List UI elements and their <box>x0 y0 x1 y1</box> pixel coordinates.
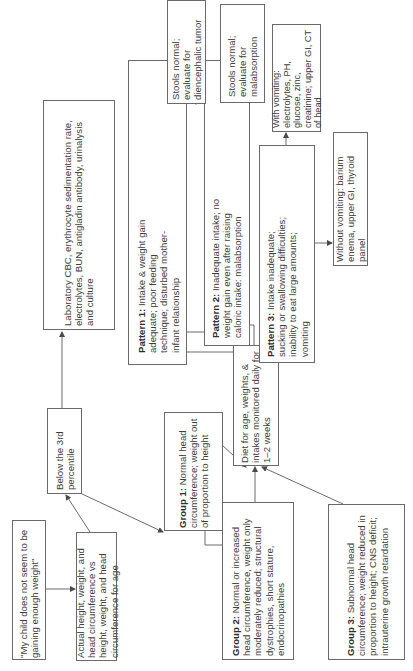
group1-box: Group 1: Normal head circumference; weig… <box>164 412 223 531</box>
pattern3-label: Pattern 3: <box>265 313 276 357</box>
pattern1-box: Pattern 1: Intake & weight gain adequate… <box>128 60 187 365</box>
stools-malabsorption-text: Stools normal; evaluate for malabsorptio… <box>226 11 260 97</box>
with-vomiting-box: With vomiting: electrolytes, PH, glucose… <box>272 24 321 132</box>
pattern2-label: Pattern 2: <box>210 294 221 338</box>
with-vomiting-text: With vomiting: electrolytes, PH, glucose… <box>270 28 323 128</box>
pattern2-text: Pattern 2: Inadequate intake; no weight … <box>210 192 244 338</box>
below-3rd-percentile-box: Below the 3rd percentile <box>47 408 82 494</box>
pattern3-box: Pattern 3: Intake inadequate; sucking or… <box>259 145 315 363</box>
below-3rd-percentile-text: Below the 3rd percentile <box>53 412 75 490</box>
group3-label: Group 3: <box>344 616 355 656</box>
group2-label: Group 2: <box>230 616 241 656</box>
group3-box: Group 3: Subnormal head circumference; w… <box>328 504 405 660</box>
laboratory-text: Laboratory CBC, erythrocyte sedimentatio… <box>62 104 96 326</box>
stools-tumor-text: Stools normal; evaluate for diencephalic… <box>170 4 204 100</box>
pattern1-text: Pattern 1: Intake & weight gain adequate… <box>135 213 180 353</box>
complaint-text: "My child does not seem to be gaining en… <box>18 522 40 658</box>
pattern3-text: Pattern 3: Intake inadequate; sucking or… <box>265 207 310 357</box>
group2-box: Group 2: Normal or increased head circum… <box>222 502 294 660</box>
without-vomiting-text: Without vomiting: barium enema, upper GI… <box>334 136 368 262</box>
group1-text: Group 1: Normal head circumference; weig… <box>177 416 211 528</box>
group1-label: Group 1: <box>177 488 188 528</box>
group2-text: Group 2: Normal or increased head circum… <box>230 506 286 656</box>
stools-malabsorption-box: Stools normal; evaluate for malabsorptio… <box>220 4 265 103</box>
complaint-box: "My child does not seem to be gaining en… <box>12 520 46 660</box>
laboratory-box: Laboratory CBC, erythrocyte sedimentatio… <box>43 100 115 330</box>
measurement-text: Actual height, weight, and head circumfe… <box>74 536 119 658</box>
pattern1-label: Pattern 1: <box>135 308 146 352</box>
stools-tumor-box: Stools normal; evaluate for diencephalic… <box>167 0 206 104</box>
without-vomiting-box: Without vomiting: barium enema, upper GI… <box>333 132 368 266</box>
group3-text: Group 3: Subnormal head circumference; w… <box>344 508 389 656</box>
diet-box: Diet for age, weights, & intakes monitor… <box>233 345 279 466</box>
measurement-box: Actual height, weight, and head circumfe… <box>76 532 117 661</box>
diet-text: Diet for age, weights, & intakes monitor… <box>239 349 273 463</box>
